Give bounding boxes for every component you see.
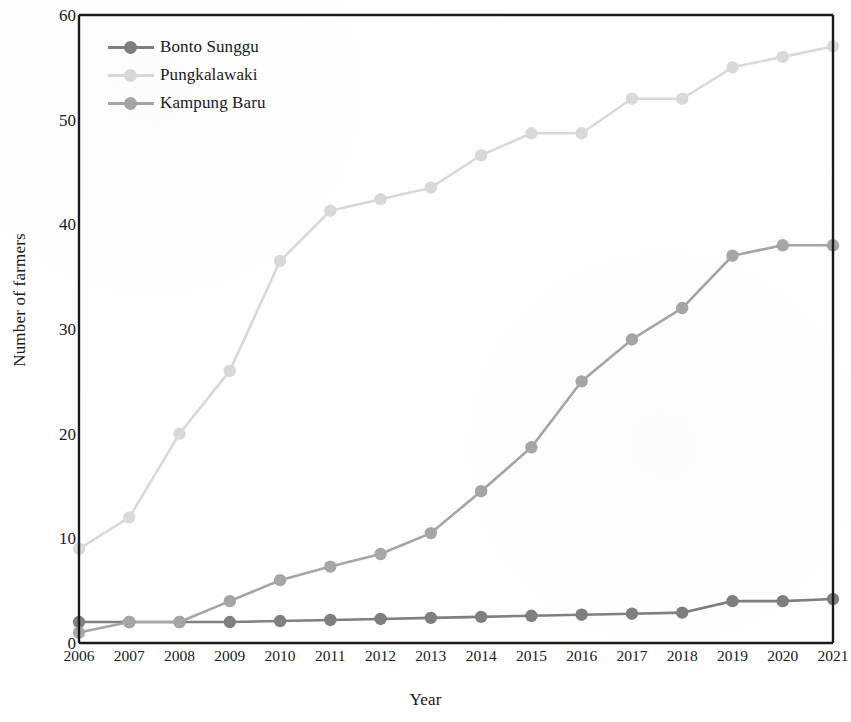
series-line-kampung-baru (79, 245, 833, 632)
data-point (274, 255, 286, 267)
legend-marker-icon (124, 69, 137, 82)
x-tick-label: 2021 (807, 648, 851, 664)
data-point (475, 149, 487, 161)
data-point (123, 616, 135, 628)
data-point (777, 595, 789, 607)
data-point (123, 511, 135, 523)
series-pungkalawaki (73, 40, 839, 555)
x-tick-label: 2019 (706, 648, 758, 664)
data-point (575, 127, 587, 139)
legend-swatch-icon (108, 38, 154, 56)
chart-legend: Bonto Sunggu Pungkalawaki Kampung Baru (108, 33, 358, 117)
data-point (676, 93, 688, 105)
data-point (374, 613, 386, 625)
legend-marker-icon (124, 41, 137, 54)
legend-swatch-icon (108, 94, 154, 112)
data-point (726, 595, 738, 607)
data-point (525, 127, 537, 139)
data-point (173, 427, 185, 439)
x-tick-label: 2017 (606, 648, 658, 664)
series-line-bonto-sunggu (79, 599, 833, 622)
x-tick-label: 2015 (505, 648, 557, 664)
data-point (274, 615, 286, 627)
x-axis-tick-labels: 2006200720082009201020112012201320142015… (0, 648, 851, 678)
data-point (777, 51, 789, 63)
data-point (475, 485, 487, 497)
x-tick-label: 2016 (556, 648, 608, 664)
series-kampung-baru (73, 239, 839, 639)
legend-item-bonto-sunggu[interactable]: Bonto Sunggu (108, 33, 358, 61)
data-point (274, 574, 286, 586)
data-point (626, 333, 638, 345)
series-line-pungkalawaki (79, 46, 833, 548)
data-point (575, 609, 587, 621)
legend-item-kampung-baru[interactable]: Kampung Baru (108, 89, 358, 117)
data-point (726, 250, 738, 262)
chart-figure: Number of farmers 0102030405060 20062007… (0, 0, 851, 722)
data-point (525, 441, 537, 453)
x-tick-label: 2009 (204, 648, 256, 664)
x-tick-label: 2011 (304, 648, 356, 664)
x-axis-title: Year (0, 690, 851, 710)
x-tick-label: 2020 (757, 648, 809, 664)
data-point (374, 548, 386, 560)
x-tick-label: 2006 (53, 648, 105, 664)
x-tick-label: 2007 (103, 648, 155, 664)
data-point (626, 607, 638, 619)
data-point (374, 193, 386, 205)
legend-label: Pungkalawaki (154, 65, 258, 85)
x-tick-label: 2014 (455, 648, 507, 664)
data-point (425, 527, 437, 539)
data-point (425, 182, 437, 194)
data-point (676, 606, 688, 618)
legend-marker-icon (124, 97, 137, 110)
data-point (676, 302, 688, 314)
x-tick-label: 2008 (154, 648, 206, 664)
data-point (224, 616, 236, 628)
x-tick-label: 2012 (355, 648, 407, 664)
data-point (525, 610, 537, 622)
series-layer (73, 40, 839, 639)
data-point (324, 205, 336, 217)
data-point (224, 595, 236, 607)
data-point (324, 614, 336, 626)
data-point (475, 611, 487, 623)
data-point (726, 61, 738, 73)
x-tick-label: 2013 (405, 648, 457, 664)
data-point (173, 616, 185, 628)
data-point (224, 365, 236, 377)
data-point (324, 560, 336, 572)
data-point (626, 93, 638, 105)
x-tick-label: 2018 (656, 648, 708, 664)
data-point (425, 612, 437, 624)
series-bonto-sunggu (73, 593, 839, 628)
data-point (575, 375, 587, 387)
legend-label: Bonto Sunggu (154, 37, 259, 57)
legend-label: Kampung Baru (154, 93, 266, 113)
legend-item-pungkalawaki[interactable]: Pungkalawaki (108, 61, 358, 89)
x-tick-label: 2010 (254, 648, 306, 664)
data-point (777, 239, 789, 251)
legend-swatch-icon (108, 66, 154, 84)
